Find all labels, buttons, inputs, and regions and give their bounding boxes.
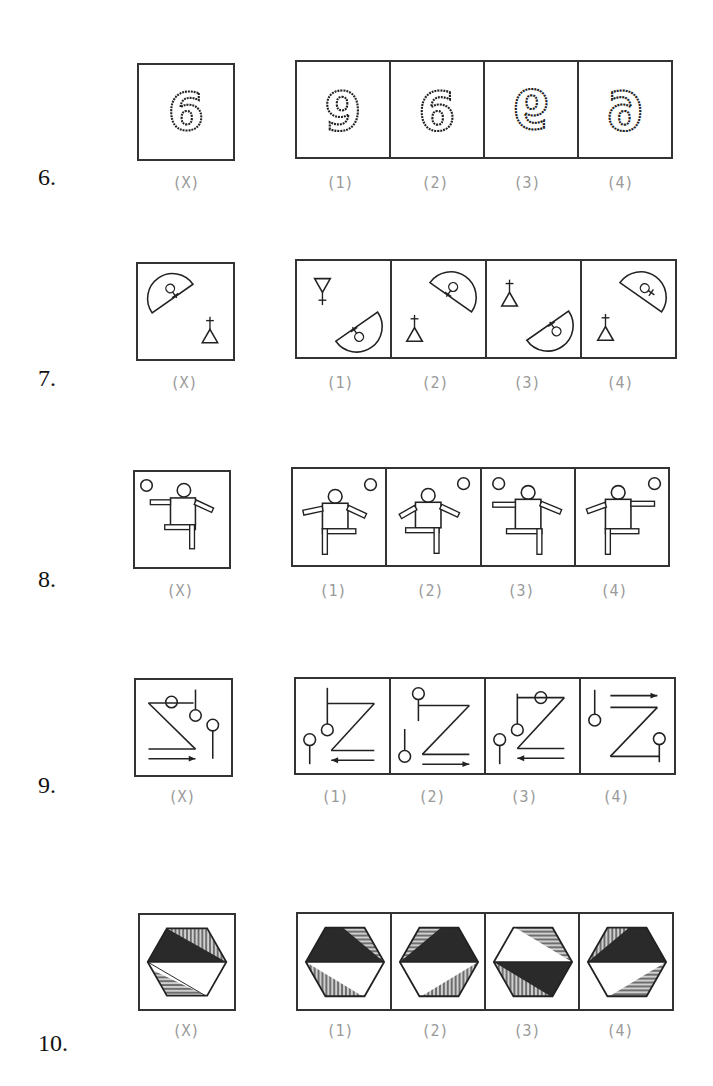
stick-figure-icon (135, 472, 229, 567)
option-2[interactable] (391, 679, 486, 773)
stick-figure-icon (482, 469, 574, 565)
option-1[interactable] (297, 261, 392, 357)
option-1[interactable]: 9 (297, 62, 391, 157)
digit-nine-icon: 9 (297, 62, 389, 157)
option-2[interactable] (392, 914, 486, 1009)
triangle-cross-icon (202, 317, 217, 343)
option-3[interactable] (482, 469, 576, 565)
option-label: (3) (494, 788, 554, 806)
option-3[interactable] (487, 261, 582, 357)
option-label: (1) (310, 374, 370, 392)
options-strip: 9 6 6 6 (295, 60, 673, 159)
problem-label: (X) (152, 788, 212, 806)
semicircle-venus-icon (429, 262, 485, 314)
option-2[interactable] (392, 261, 487, 357)
options-strip (291, 467, 670, 567)
z-pins-arrows-icon (296, 679, 389, 773)
option-4[interactable] (582, 261, 675, 357)
problem-figure (138, 913, 236, 1011)
stick-figure-icon (576, 469, 668, 565)
triangle-cross-icon (598, 314, 614, 340)
question-number: 6. (38, 164, 56, 191)
shaded-hexagon-icon (486, 914, 578, 1009)
problem-label: (X) (150, 582, 210, 600)
shaded-hexagon-icon (140, 915, 234, 1009)
option-label: (1) (310, 1022, 370, 1040)
option-label: (2) (405, 174, 465, 192)
shaded-hexagon-icon (392, 914, 484, 1009)
inverted-triangle-cross-icon (315, 279, 331, 305)
question-number: 9. (38, 772, 56, 799)
flipped-six-icon: 6 (485, 62, 577, 157)
svg-text:6: 6 (607, 81, 644, 142)
option-label: (2) (405, 1022, 465, 1040)
option-label: (1) (303, 582, 363, 600)
option-label: (1) (305, 788, 365, 806)
option-label: (1) (310, 174, 370, 192)
option-label: (2) (402, 788, 462, 806)
option-1[interactable] (298, 914, 392, 1009)
option-1[interactable] (296, 679, 391, 773)
stick-figure-icon (387, 469, 479, 565)
option-label: (3) (491, 582, 551, 600)
option-label: (3) (497, 174, 557, 192)
options-strip (294, 677, 676, 775)
z-pins-arrows-icon (136, 680, 231, 775)
option-3[interactable] (486, 679, 581, 773)
problem-figure (133, 470, 231, 569)
option-label: (2) (400, 582, 460, 600)
rotated-six-icon: 6 (391, 62, 483, 157)
question-number: 8. (38, 566, 56, 593)
option-4[interactable] (576, 469, 668, 565)
shaded-hexagon-icon (298, 914, 390, 1009)
question-number: 7. (38, 365, 56, 392)
option-label: (3) (497, 374, 557, 392)
problem-label: (X) (156, 174, 216, 192)
option-label: (4) (590, 174, 650, 192)
svg-text:6: 6 (419, 81, 456, 142)
z-pins-arrows-icon (486, 679, 579, 773)
option-label: (3) (497, 1022, 557, 1040)
z-pins-arrows-icon (391, 679, 484, 773)
option-4[interactable] (581, 679, 674, 773)
mirrored-six-icon: 6 (579, 62, 671, 157)
options-strip (296, 912, 674, 1011)
option-label: (4) (586, 788, 646, 806)
option-4[interactable]: 6 (579, 62, 671, 157)
z-pins-arrows-icon (581, 679, 674, 773)
svg-text:6: 6 (168, 82, 204, 142)
semicircle-venus-icon (526, 309, 580, 357)
svg-text:6: 6 (513, 78, 550, 139)
option-label: (4) (590, 374, 650, 392)
stick-figure-icon (293, 469, 385, 565)
options-strip (295, 259, 677, 359)
option-3[interactable]: 6 (485, 62, 579, 157)
triangle-cross-icon (407, 315, 423, 341)
option-1[interactable] (293, 469, 387, 565)
problem-label: (X) (154, 374, 214, 392)
option-label: (2) (405, 374, 465, 392)
problem-figure: 6 (137, 63, 235, 161)
problem-label: (X) (156, 1022, 216, 1040)
shaded-hexagon-icon (580, 914, 672, 1009)
semicircle-venus-icon (335, 310, 390, 357)
digit-six-figure: 6 (139, 65, 233, 159)
question-number: 10. (38, 1030, 68, 1057)
option-2[interactable]: 6 (391, 62, 485, 157)
problem-figure (134, 678, 233, 777)
svg-text:9: 9 (325, 81, 362, 142)
option-label: (4) (584, 582, 644, 600)
triangle-cross-icon (502, 280, 518, 306)
option-2[interactable] (387, 469, 481, 565)
semicircle-venus-icon (620, 262, 675, 312)
option-label: (4) (590, 1022, 650, 1040)
option-4[interactable] (580, 914, 672, 1009)
problem-figure (136, 262, 235, 361)
semicircle-venus-icon (138, 264, 194, 314)
option-3[interactable] (486, 914, 580, 1009)
